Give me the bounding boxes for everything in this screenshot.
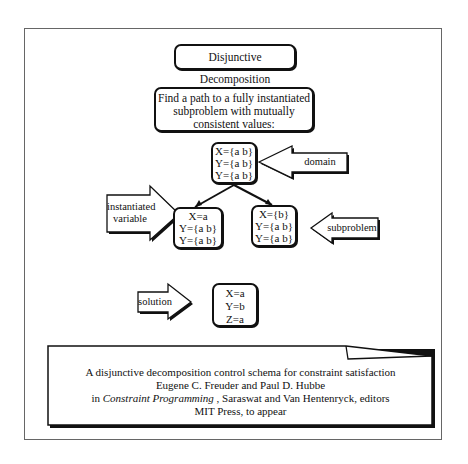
- edge-root-left-head: [195, 200, 202, 207]
- goal-statement: Find a path to a fully instantiated subp…: [154, 87, 314, 132]
- citation-source: in Constraint Programming , Saraswat and…: [48, 392, 433, 405]
- diagram-title: Disjunctive Decomposition: [174, 44, 296, 70]
- domain-label: domain: [293, 156, 347, 168]
- right-child-node: X={b} Y={a b} Y={a b}: [251, 205, 297, 247]
- citation-text: A disjunctive decomposition control sche…: [48, 366, 433, 418]
- book-title: Constraint Programming: [103, 392, 214, 404]
- citation-title: A disjunctive decomposition control sche…: [48, 366, 433, 379]
- instantiated-variable-label: instantiated variable: [107, 201, 153, 225]
- solution-node: X=a Y=b Z=a: [212, 283, 258, 327]
- root-node: X={a b} Y={a b} Y={a b}: [211, 142, 257, 184]
- left-child-node: X=a Y={a b} Y={a b}: [173, 207, 223, 249]
- citation-authors: Eugene C. Freuder and Paul D. Hubbe: [48, 379, 433, 392]
- subproblem-label: subproblem: [326, 222, 378, 234]
- citation-publisher: MIT Press, to appear: [48, 405, 433, 418]
- solution-label: solution: [138, 296, 172, 308]
